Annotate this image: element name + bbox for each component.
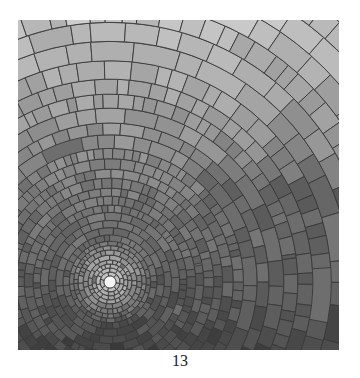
mosaic-tile <box>89 159 105 171</box>
mosaic-tile <box>95 108 125 123</box>
mosaic-tile <box>41 285 50 295</box>
mosaic-tile <box>195 273 203 286</box>
mosaic-tile <box>103 329 118 337</box>
mosaic-tile <box>222 282 234 297</box>
mosaic-tile <box>233 269 244 282</box>
page-number: 13 <box>0 352 360 370</box>
mosaic-tile <box>171 277 180 293</box>
mosaic-tile <box>203 271 214 278</box>
mosaic-tile <box>214 277 223 288</box>
mosaic-tile <box>330 282 339 306</box>
mosaic-tile <box>284 274 298 294</box>
mosaic-tile <box>93 179 102 190</box>
mosaic-tile <box>81 135 99 151</box>
mosaic-tile <box>83 281 88 287</box>
mosaic-tile <box>179 269 187 279</box>
mosaic-tile <box>108 314 114 318</box>
mosaic-tile <box>113 149 126 160</box>
mosaic-tile <box>63 276 70 285</box>
mosaic-tile <box>107 309 113 314</box>
mosaic-tile <box>233 282 244 291</box>
mosaic-tile <box>75 95 94 111</box>
mosaic-tile <box>105 250 114 255</box>
mosaic-tile <box>157 275 165 285</box>
mosaic-tile <box>282 258 297 275</box>
mosaic-tile <box>97 135 114 149</box>
mosaic-tile <box>118 94 135 109</box>
mosaic-tile <box>107 260 114 264</box>
mosaic-tile <box>100 188 111 197</box>
mosaic-tile <box>24 273 33 287</box>
mosaic-tile <box>256 263 269 283</box>
mosaic-tile <box>282 293 298 312</box>
mosaic-tile <box>76 61 105 82</box>
mosaic-tile <box>102 205 108 213</box>
mosaic-tile <box>102 178 113 188</box>
mosaic-tile <box>213 264 223 277</box>
mosaic-tile <box>297 284 313 305</box>
mosaic-tile <box>104 159 121 170</box>
mosaic-tile <box>150 275 157 282</box>
mosaic-tile <box>104 61 132 80</box>
mosaic-tile <box>330 260 339 282</box>
mosaic-tile <box>106 318 115 323</box>
mosaic-tile <box>108 205 115 212</box>
mosaic-tile <box>186 269 196 277</box>
mosaic-illustration <box>18 20 339 350</box>
mosaic-tile <box>242 286 257 302</box>
mosaic-tile <box>99 336 113 344</box>
mosaic-tile <box>97 197 104 207</box>
mosaic-tile <box>111 342 125 350</box>
mosaic-tile <box>242 256 258 286</box>
mosaic-tile <box>204 278 214 288</box>
mosaic-tile <box>33 283 41 289</box>
mosaic-tile <box>105 20 123 23</box>
mosaic-tile <box>18 286 25 297</box>
mosaic-tile <box>164 271 172 286</box>
mosaic-tile <box>108 241 118 246</box>
mosaic-tile <box>180 279 187 284</box>
mosaic-tile <box>103 220 119 228</box>
mosaic-tile <box>106 323 113 330</box>
mosaic-tile <box>89 20 105 23</box>
mosaic-tile <box>105 212 122 221</box>
mosaic-tile <box>298 273 313 285</box>
mosaic-tile <box>103 123 121 135</box>
mosaic-tile <box>111 169 124 179</box>
mosaic-tile <box>112 178 123 189</box>
mosaic-tile <box>71 23 92 44</box>
mosaic-tile <box>112 188 122 197</box>
mosaic-tile <box>90 22 126 42</box>
mosaic-tile <box>103 94 119 108</box>
mosaic-tile <box>232 290 243 301</box>
mosaic-tile <box>114 135 135 151</box>
mosaic-figure <box>18 20 339 350</box>
mosaic-tile <box>87 123 104 136</box>
mosaic-tile <box>187 277 196 289</box>
mosaic-center <box>104 276 116 288</box>
mosaic-tile <box>132 281 137 286</box>
mosaic-tile <box>40 268 49 286</box>
mosaic-tile <box>268 260 284 286</box>
mosaic-tile <box>91 41 135 62</box>
mosaic-tile <box>104 235 110 242</box>
mosaic-tile <box>296 253 313 274</box>
mosaic-tile <box>95 169 111 179</box>
mosaic-tile <box>33 273 41 283</box>
mosaic-tile <box>66 42 92 64</box>
mosaic-tile <box>146 278 151 285</box>
mosaic-tile <box>222 266 234 283</box>
mosaic-tile <box>255 282 269 308</box>
mosaic-tile <box>103 148 113 158</box>
mosaic-tile <box>95 79 118 95</box>
mosaic-tile <box>117 79 129 95</box>
mosaic-tile <box>103 196 112 205</box>
mosaic-tile <box>194 265 203 274</box>
mosaic-tile <box>311 253 331 269</box>
mosaic-tile <box>18 277 24 287</box>
mosaic-tile <box>213 287 223 300</box>
mosaic-tile <box>93 149 103 160</box>
mosaic-tile <box>48 280 56 292</box>
mosaic-tile <box>93 94 103 109</box>
mosaic-tile <box>268 286 284 306</box>
